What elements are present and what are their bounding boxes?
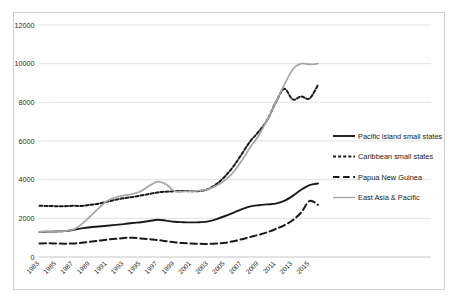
x-axis-tick-label: 2011	[262, 260, 277, 275]
x-axis-tick-label: 2013	[278, 260, 294, 276]
x-axis-tick-label: 1991	[92, 260, 108, 276]
x-axis-tick-label: 1997	[143, 260, 159, 276]
x-axis-tick-label: 2015	[295, 260, 311, 276]
x-axis-tick-label: 2007	[227, 260, 243, 276]
legend-label-0: Pacific island small states	[358, 132, 443, 141]
gridlines: 020004000600080001000012000	[15, 21, 432, 262]
x-axis-tick-label: 1985	[42, 260, 58, 276]
x-axis-tick-label: 1999	[160, 260, 176, 276]
y-axis-tick-label: 6000	[19, 137, 35, 146]
x-axis-tick-label: 1989	[76, 260, 92, 276]
x-axis-tick-label: 1983	[25, 260, 41, 276]
y-axis-tick-label: 8000	[19, 98, 35, 107]
x-axis-tick-label: 2009	[244, 260, 260, 276]
line-chart-plot: 0200040006000800010000120001983198519871…	[0, 0, 459, 307]
x-axis-tick-label: 1987	[59, 260, 75, 276]
x-axis-tick-labels: 1983198519871989199119931995199719992001…	[25, 260, 311, 276]
x-axis-tick-label: 1993	[109, 260, 125, 276]
legend-label-2: Papua New Guinea	[358, 173, 423, 182]
x-axis-tick-label: 2001	[177, 260, 193, 276]
x-axis-tick-label: 2003	[194, 260, 210, 276]
x-axis-tick-label: 2005	[211, 260, 227, 276]
series-group	[40, 63, 319, 243]
x-axis-tick-label: 1995	[126, 260, 142, 276]
chart-container: 0200040006000800010000120001983198519871…	[0, 0, 459, 307]
y-axis-tick-label: 10000	[15, 59, 35, 68]
legend-label-1: Caribbean small states	[358, 152, 433, 161]
y-axis-tick-label: 12000	[15, 21, 35, 30]
y-axis-tick-label: 4000	[19, 175, 35, 184]
legend: Pacific island small statesCaribbean sma…	[333, 132, 443, 203]
y-axis-tick-label: 2000	[19, 214, 35, 223]
legend-label-3: East Asia & Pacific	[358, 193, 420, 202]
